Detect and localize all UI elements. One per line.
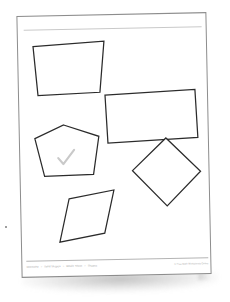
shape-rectangle[interactable] xyxy=(105,89,198,143)
breadcrumb-item-whole-sheet[interactable]: Whole Sheet xyxy=(66,265,82,268)
breadcrumb-item-solid-shapes[interactable]: Solid Shapes xyxy=(44,265,61,268)
breadcrumb-separator: » xyxy=(41,265,43,268)
shapes-layer xyxy=(17,13,212,279)
footer-credit: © Free Math Worksheets Online xyxy=(174,262,208,266)
worksheet-page: Geometry » Solid Shapes » Whole Sheet » … xyxy=(16,12,211,278)
shape-pentagon[interactable] xyxy=(35,124,100,176)
breadcrumb-separator: » xyxy=(84,265,86,268)
shape-trapezoid[interactable] xyxy=(33,41,105,95)
dust-speck xyxy=(5,226,7,228)
shape-diamond[interactable] xyxy=(132,137,201,206)
shape-rhombus[interactable] xyxy=(59,190,115,242)
breadcrumb-item-shapes[interactable]: Shapes xyxy=(88,264,97,267)
breadcrumb-item-geometry[interactable]: Geometry xyxy=(26,266,38,269)
photo-scene: Geometry » Solid Shapes » Whole Sheet » … xyxy=(0,0,230,302)
breadcrumb: Geometry » Solid Shapes » Whole Sheet » … xyxy=(26,264,97,268)
breadcrumb-separator: » xyxy=(63,265,65,268)
